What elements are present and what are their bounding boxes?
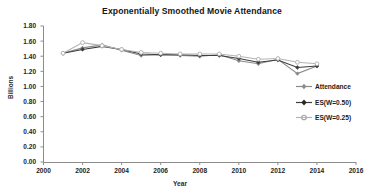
data-point bbox=[178, 52, 182, 56]
data-series-layer bbox=[61, 41, 319, 76]
data-point bbox=[100, 44, 104, 48]
legend-swatch-attendance bbox=[296, 82, 312, 91]
y-tick-label: 1.40 bbox=[6, 53, 36, 60]
data-point bbox=[61, 51, 65, 55]
legend-swatch-es-050 bbox=[296, 98, 312, 107]
data-point bbox=[315, 62, 319, 66]
x-tick-label: 2006 bbox=[144, 167, 178, 175]
chart-container: Exponentially Smoothed Movie Attendance … bbox=[0, 0, 384, 194]
data-point bbox=[159, 51, 163, 55]
legend-label-es-025: ES(W=0.25) bbox=[315, 114, 351, 121]
data-point bbox=[237, 54, 241, 58]
data-point bbox=[81, 41, 85, 45]
series-es-w-0-50 bbox=[61, 44, 319, 70]
x-tick-label: 2010 bbox=[222, 167, 256, 175]
y-tick-label: 0.60 bbox=[6, 113, 36, 120]
data-point bbox=[120, 48, 124, 52]
legend-item-es-050[interactable]: ES(W=0.50) bbox=[296, 98, 351, 107]
y-tick-label: 0.80 bbox=[6, 98, 36, 105]
data-point bbox=[295, 65, 299, 69]
data-point bbox=[139, 51, 143, 55]
data-point bbox=[276, 57, 280, 61]
x-tick-label: 2002 bbox=[66, 167, 100, 175]
legend-item-es-025[interactable]: ES(W=0.25) bbox=[296, 113, 351, 122]
x-tick-label: 2000 bbox=[27, 167, 61, 175]
legend-swatch-es-025 bbox=[296, 113, 312, 122]
y-tick-label: 0.40 bbox=[6, 128, 36, 135]
x-tick-label: 2012 bbox=[261, 167, 295, 175]
data-point bbox=[296, 60, 300, 64]
x-tick-label: 2014 bbox=[300, 167, 334, 175]
data-point bbox=[256, 57, 260, 61]
data-point bbox=[217, 52, 221, 56]
y-tick-label: 1.00 bbox=[6, 83, 36, 90]
legend-label-attendance: Attendance bbox=[315, 83, 351, 90]
data-point bbox=[198, 52, 202, 56]
chart-legend: Attendance ES(W=0.50) ES(W=0.25) bbox=[296, 82, 351, 122]
y-tick-label: 0.00 bbox=[6, 158, 36, 165]
legend-label-es-050: ES(W=0.50) bbox=[315, 99, 351, 106]
series-es-w-0-25 bbox=[61, 41, 319, 66]
x-tick-label: 2004 bbox=[105, 167, 139, 175]
y-tick-label: 1.20 bbox=[6, 68, 36, 75]
x-tick-label: 2016 bbox=[339, 167, 373, 175]
y-tick-label: 0.20 bbox=[6, 143, 36, 150]
y-tick-label: 1.60 bbox=[6, 38, 36, 45]
y-tick-label: 1.80 bbox=[6, 22, 36, 29]
legend-item-attendance[interactable]: Attendance bbox=[296, 82, 351, 91]
x-tick-label: 2008 bbox=[183, 167, 217, 175]
